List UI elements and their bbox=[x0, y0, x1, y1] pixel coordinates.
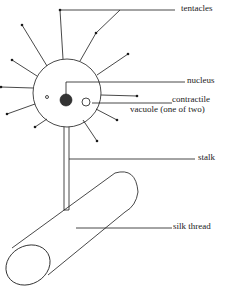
label-nucleus: nucleus bbox=[187, 75, 215, 85]
label-silk-thread: silk thread bbox=[173, 221, 211, 231]
diagram-canvas bbox=[0, 0, 225, 293]
label-tentacles: tentacles bbox=[181, 3, 212, 13]
label-stalk: stalk bbox=[198, 152, 215, 162]
label-contractile: contractile bbox=[172, 94, 210, 104]
cell-body bbox=[33, 59, 101, 127]
silk-thread bbox=[12, 172, 138, 275]
nucleus bbox=[60, 94, 72, 106]
label-vacuole: vacuole (one of two) bbox=[130, 104, 205, 114]
silk-thread-end bbox=[0, 237, 57, 293]
